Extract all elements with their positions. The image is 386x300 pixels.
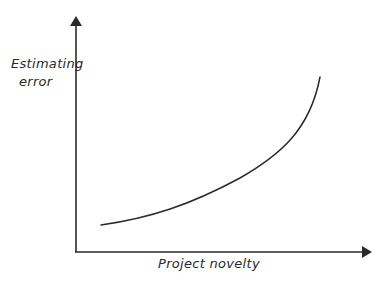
- y-axis-arrow-icon: [70, 16, 82, 26]
- x-axis-arrow-icon: [362, 246, 372, 258]
- chart-canvas: [0, 0, 386, 300]
- y-axis-label-line2: error: [19, 74, 53, 90]
- data-curve: [101, 77, 320, 225]
- y-axis-label-line1: Estimating: [11, 56, 84, 72]
- x-axis-label: Project novelty: [158, 256, 260, 272]
